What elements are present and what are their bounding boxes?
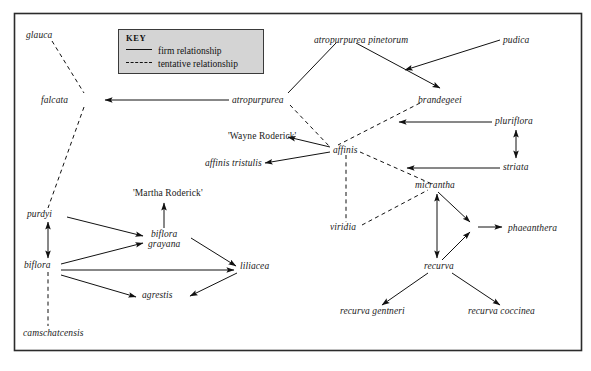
key-sample-solid-line — [126, 49, 152, 50]
edge-pudica-pinetorum — [405, 40, 500, 70]
node-recurva: recurva — [424, 261, 454, 271]
node-affinis-tristulis: affinis tristulis — [205, 158, 262, 168]
edge-brandegeei-affinis — [338, 103, 420, 145]
node-phaeanthera: phaeanthera — [508, 223, 557, 233]
edge-micrantha-phaeanthera — [438, 192, 470, 222]
node-pudica: pudica — [503, 35, 529, 45]
key-sample-dashed-line — [126, 62, 152, 63]
node-affinis: affinis — [333, 145, 357, 155]
key-legend: KEY firm relationship tentative relation… — [118, 29, 264, 74]
edge-purdyi-biflora-grayana — [67, 217, 143, 236]
node-wayne-roderick: 'Wayne Roderick' — [228, 131, 296, 141]
key-row-tentative: tentative relationship — [126, 58, 238, 71]
node-pluriflora: pluriflora — [495, 116, 533, 126]
node-camschatcensis: camschatcensis — [23, 328, 84, 338]
diagram-canvas: KEY firm relationship tentative relation… — [0, 0, 591, 371]
key-label-firm: firm relationship — [158, 46, 222, 56]
node-biflora-grayana: biflora grayana — [148, 229, 180, 250]
node-atropurpurea: atropurpurea — [232, 95, 284, 105]
node-brandegeei: brandegeei — [418, 95, 462, 105]
node-micrantha: micrantha — [415, 180, 455, 190]
edge-affinis-affinis-tristulis — [265, 152, 330, 163]
edge-pinetorum-brandegeei — [356, 43, 440, 88]
key-row-firm: firm relationship — [126, 45, 222, 58]
diagram-border — [15, 14, 582, 351]
node-viridia: viridia — [330, 222, 356, 232]
edge-recurva-phaeanthera — [442, 232, 470, 260]
node-striata: striata — [503, 162, 529, 172]
node-recurva-coccinea: recurva coccinea — [468, 306, 535, 316]
node-liliacea: liliacea — [240, 261, 269, 271]
node-recurva-gentneri: recurva gentneri — [340, 306, 405, 316]
edge-glauca-falcata — [52, 41, 84, 93]
edge-atropurpurea-pinetorum — [288, 43, 336, 93]
node-purdyi: purdyi — [27, 209, 52, 219]
node-atropurpurea-pinetorum: atropurpurea pinetorum — [314, 35, 408, 45]
edge-biflora-grayana-liliacea — [191, 238, 236, 266]
key-title: KEY — [126, 33, 146, 43]
edge-liliacea-agrestis — [190, 273, 237, 296]
node-biflora: biflora — [24, 260, 51, 270]
edge-recurva-gentneri — [382, 273, 428, 305]
edge-recurva-coccinea — [452, 273, 500, 305]
node-martha-roderick: 'Martha Roderick' — [133, 188, 203, 198]
key-label-tentative: tentative relationship — [158, 59, 238, 69]
node-agrestis: agrestis — [142, 290, 173, 300]
edge-biflora-agrestis — [61, 275, 136, 297]
edge-biflora-biflora-grayana — [61, 243, 143, 264]
edge-falcata-purdyi — [48, 107, 84, 208]
edge-viridia-micrantha — [362, 190, 428, 225]
node-glauca: glauca — [26, 30, 52, 40]
node-falcata: falcata — [41, 95, 68, 105]
